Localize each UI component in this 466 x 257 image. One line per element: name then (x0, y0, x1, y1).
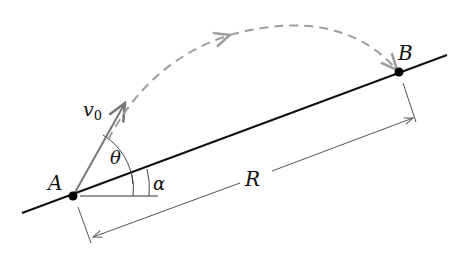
trajectory-path-first-half (108, 35, 230, 140)
incline-surface-line (22, 55, 447, 213)
point-b-label: B (397, 41, 413, 65)
velocity-subscript: 0 (94, 108, 102, 123)
incline-ground (22, 55, 451, 236)
projectile-incline-diagram: v0 θ A α R B (0, 0, 466, 257)
point-b-marker (395, 68, 404, 77)
velocity-label: v0 (83, 98, 102, 123)
alpha-label: α (153, 173, 165, 194)
point-a-marker (69, 192, 78, 201)
trajectory-path-second-half (230, 26, 397, 70)
velocity-symbol: v (83, 98, 94, 120)
range-label: R (244, 167, 260, 191)
point-a-label: A (46, 171, 62, 195)
ground-shading (22, 55, 451, 236)
theta-label: θ (110, 147, 121, 168)
